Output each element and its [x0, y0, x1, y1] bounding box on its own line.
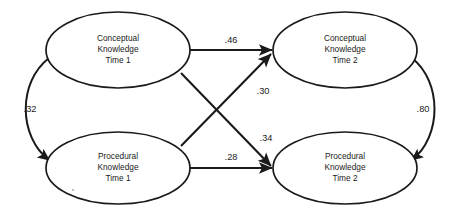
node-conceptual-knowledge-time-1[interactable]: Conceptual Knowledge Time 1 [46, 12, 190, 88]
coefficient-label-80: .80 [417, 104, 430, 114]
node-procedural-knowledge-time-1[interactable]: Procedural Knowledge Time 1 [46, 132, 190, 204]
node-label-pk1-line3: Time 1 [105, 173, 130, 183]
coefficient-label-28: .28 [225, 152, 238, 162]
node-procedural-knowledge-time-2[interactable]: Procedural Knowledge Time 2 [273, 132, 417, 204]
crosslag-path-procedural-to-conceptual [181, 54, 271, 146]
crosslag-line-up [181, 54, 271, 146]
node-label-ck2-line3: Time 2 [332, 55, 357, 65]
node-label-pk1-line2: Knowledge [97, 162, 138, 172]
coefficient-label-32: .32 [24, 104, 37, 114]
path-diagram-svg: Conceptual Knowledge Time 1 Conceptual K… [0, 0, 453, 219]
coefficient-label-46: .46 [225, 35, 238, 45]
node-label-ck1-line3: Time 1 [105, 55, 130, 65]
node-label-pk2-line3: Time 2 [332, 173, 357, 183]
node-label-ck1-line1: Conceptual [97, 33, 139, 43]
coefficient-label-30: .30 [257, 86, 270, 96]
node-label-ck2-line1: Conceptual [324, 33, 366, 43]
scan-artifact-speck [72, 189, 73, 190]
node-label-pk1-line1: Procedural [98, 151, 138, 161]
node-label-pk2-line2: Knowledge [324, 162, 365, 172]
node-conceptual-knowledge-time-2[interactable]: Conceptual Knowledge Time 2 [273, 12, 417, 88]
coefficient-label-34: .34 [260, 133, 273, 143]
node-label-pk2-line1: Procedural [325, 151, 365, 161]
node-label-ck1-line2: Knowledge [97, 44, 138, 54]
path-diagram-canvas: Conceptual Knowledge Time 1 Conceptual K… [0, 0, 453, 219]
node-label-ck2-line2: Knowledge [324, 44, 365, 54]
